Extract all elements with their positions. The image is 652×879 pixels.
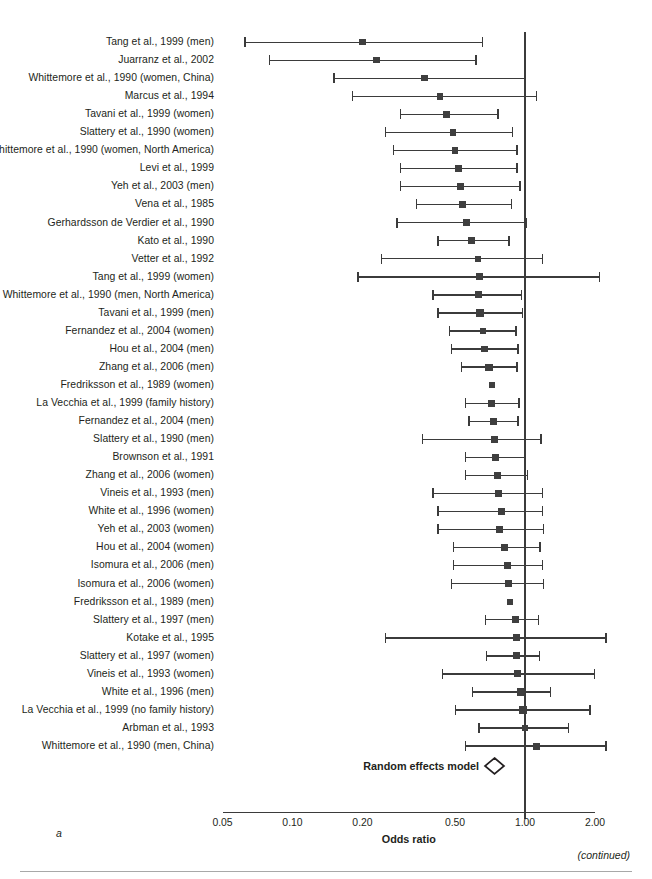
study-label: Vineis et al., 1993 (women) — [87, 664, 214, 684]
ci-cap-lower — [385, 127, 386, 137]
study-label: Slattery et al., 1990 (women) — [80, 122, 214, 142]
ci-cap-lower — [465, 398, 466, 408]
forest-row: Isomura et al., 2006 (men) — [0, 555, 652, 575]
forest-row: Kato et al., 1990 — [0, 231, 652, 251]
ci-bar — [453, 565, 543, 566]
ci-cap-lower — [453, 542, 454, 552]
effect-marker — [517, 688, 524, 695]
ci-cap-lower — [385, 633, 386, 643]
forest-row: Fernandez et al., 2004 (men) — [0, 411, 652, 431]
forest-row: Slattery et al., 1990 (women) — [0, 122, 652, 142]
effect-marker — [485, 364, 492, 371]
ci-cap-upper — [518, 398, 519, 408]
study-label: Whittemore et al., 1990 (women, North Am… — [0, 140, 214, 160]
effect-marker — [519, 706, 526, 713]
study-label: Whittemore et al., 1990 (men, China) — [42, 736, 214, 756]
effect-marker — [501, 544, 508, 551]
continued-note: (continued) — [577, 849, 630, 861]
study-label: Fernandez et al., 2004 (women) — [65, 321, 214, 341]
study-label: Vena et al., 1985 — [135, 194, 214, 214]
ci-cap-lower — [465, 741, 466, 751]
confidence-interval — [437, 501, 543, 521]
ci-cap-upper — [482, 37, 483, 47]
forest-row: Yeh et al., 2003 (women) — [0, 519, 652, 539]
effect-marker — [476, 309, 483, 316]
footer-divider — [20, 871, 632, 872]
ci-cap-upper — [542, 254, 543, 264]
ci-cap-lower — [396, 218, 397, 228]
ci-cap-upper — [512, 127, 513, 137]
effect-marker — [533, 743, 540, 750]
study-label: Whittemore et al., 1990 (women, China) — [28, 68, 214, 88]
ci-bar — [352, 96, 538, 97]
ci-cap-upper — [536, 91, 537, 101]
ci-cap-upper — [517, 416, 518, 426]
forest-row: Tavani et al., 1999 (men) — [0, 303, 652, 323]
effect-marker — [452, 147, 459, 154]
ci-cap-lower — [478, 723, 479, 733]
ci-bar — [385, 637, 607, 638]
forest-row: La Vecchia et al., 1999 (family history) — [0, 393, 652, 413]
confidence-interval — [432, 483, 543, 503]
effect-marker — [373, 57, 379, 63]
ci-cap-lower — [465, 452, 466, 462]
confidence-interval — [453, 555, 543, 575]
ci-cap-lower — [461, 362, 462, 372]
effect-marker — [463, 219, 470, 226]
ci-cap-lower — [416, 199, 417, 209]
forest-row: Vineis et al., 1993 (men) — [0, 483, 652, 503]
effect-marker — [498, 508, 505, 515]
ci-cap-lower — [357, 272, 358, 282]
ci-cap-lower — [400, 181, 401, 191]
study-label: Kotake et al., 1995 — [126, 628, 214, 648]
forest-row: Vetter et al., 1992 — [0, 249, 652, 269]
study-label: Slattery et al., 1997 (men) — [93, 610, 214, 630]
study-label: Zhang et al., 2006 (women) — [86, 465, 214, 485]
ci-cap-upper — [599, 272, 600, 282]
study-label: Juarranz et al., 2002 — [118, 50, 214, 70]
forest-row: Slattery et al., 1997 (women) — [0, 646, 652, 666]
forest-plot: Tang et al., 1999 (men)Juarranz et al., … — [0, 0, 652, 879]
ci-cap-lower — [449, 326, 450, 336]
study-label: Slattery et al., 1997 (women) — [80, 646, 214, 666]
forest-row: Whittemore et al., 1990 (women, North Am… — [0, 140, 652, 160]
x-axis-tick — [524, 807, 525, 812]
confidence-interval — [333, 68, 525, 88]
ci-cap-upper — [516, 362, 517, 372]
forest-row: Hou et al., 2004 (women) — [0, 537, 652, 557]
forest-row: Hou et al., 2004 (men) — [0, 339, 652, 359]
ci-cap-upper — [589, 705, 590, 715]
confidence-interval — [453, 537, 541, 557]
study-label: White et al., 1996 (men) — [102, 682, 214, 702]
ci-cap-lower — [465, 470, 466, 480]
x-axis-tick-label: 2.00 — [585, 817, 605, 828]
effect-marker — [488, 400, 495, 407]
ci-cap-upper — [605, 741, 606, 751]
ci-cap-upper — [515, 326, 516, 336]
effect-marker — [443, 111, 449, 117]
forest-row: Brownson et al., 1991 — [0, 447, 652, 467]
confidence-interval — [352, 86, 538, 106]
ci-cap-upper — [550, 687, 551, 697]
study-label: Kato et al., 1990 — [137, 231, 214, 251]
ci-cap-lower — [486, 651, 487, 661]
ci-cap-lower — [455, 705, 456, 715]
study-label: Vineis et al., 1993 (men) — [100, 483, 214, 503]
forest-row: Levi et al., 1999 — [0, 158, 652, 178]
effect-marker — [455, 165, 462, 172]
ci-cap-upper — [542, 506, 543, 516]
forest-row: Fredriksson et al., 1989 (women) — [0, 375, 652, 395]
ci-cap-upper — [543, 524, 544, 534]
forest-row: Vineis et al., 1993 (women) — [0, 664, 652, 684]
ci-cap-upper — [521, 290, 522, 300]
effect-marker — [359, 39, 365, 45]
effect-marker — [480, 328, 487, 335]
study-label: Slattery et al., 1990 (men) — [93, 429, 214, 449]
ci-cap-upper — [511, 199, 512, 209]
study-label: Brownson et al., 1991 — [112, 447, 214, 467]
effect-marker — [481, 346, 488, 353]
confidence-interval — [472, 682, 552, 702]
study-label: Levi et al., 1999 — [140, 158, 214, 178]
study-label: Hou et al., 2004 (men) — [109, 339, 214, 359]
ci-cap-lower — [453, 560, 454, 570]
